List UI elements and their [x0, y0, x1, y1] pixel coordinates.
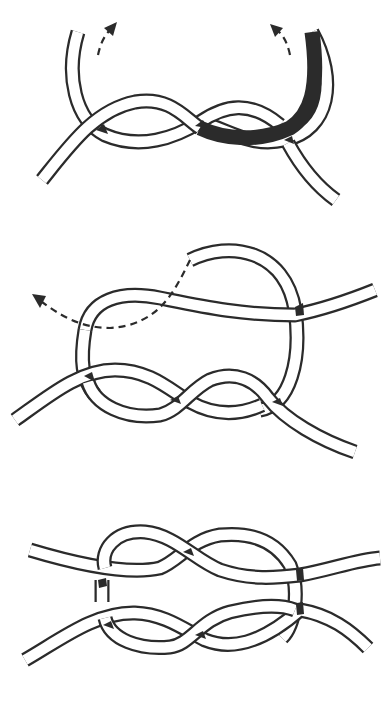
arrow-up-left-icon	[270, 24, 290, 55]
step-1-illustration	[0, 0, 383, 230]
rope-lower-strand	[25, 606, 368, 660]
step-3-panel: Step 3	[0, 480, 383, 709]
step-1-panel: Step 1	[0, 0, 383, 230]
step-2-panel: Step 2	[0, 230, 383, 475]
arrow-up-right-icon	[98, 22, 117, 55]
step-2-illustration	[0, 230, 383, 475]
rope-upper-strand	[85, 290, 375, 330]
rope-lower-strand	[15, 370, 355, 452]
step-3-illustration	[0, 480, 383, 709]
